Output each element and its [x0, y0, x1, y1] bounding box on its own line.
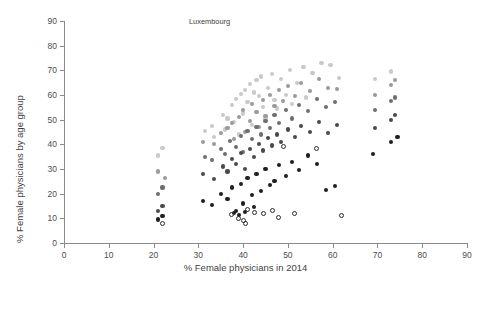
- data-point: [286, 127, 290, 131]
- data-point: [270, 208, 275, 213]
- data-point: [259, 74, 263, 78]
- data-point: [229, 212, 234, 217]
- data-point: [259, 132, 263, 136]
- data-point: [268, 93, 272, 97]
- data-point: [297, 103, 301, 107]
- data-point: [371, 152, 375, 156]
- data-point: [284, 93, 288, 97]
- data-point: [299, 124, 303, 128]
- data-point: [301, 65, 305, 69]
- data-point: [326, 131, 330, 135]
- data-point: [160, 214, 164, 218]
- data-point: [306, 109, 310, 113]
- data-point: [293, 135, 297, 139]
- data-point: [239, 151, 243, 155]
- y-axis-tick-label: 0: [30, 238, 57, 248]
- data-point: [254, 125, 258, 129]
- data-point: [239, 134, 243, 138]
- data-point: [252, 155, 256, 159]
- data-point: [284, 174, 288, 178]
- data-point: [272, 179, 276, 183]
- data-point: [275, 132, 279, 136]
- data-point: [328, 63, 332, 67]
- data-point: [248, 82, 252, 86]
- data-point: [292, 211, 297, 216]
- data-point: [219, 147, 223, 151]
- data-point: [395, 135, 399, 139]
- x-axis-tick-label: 70: [362, 250, 392, 260]
- data-point: [156, 209, 160, 213]
- data-point: [317, 77, 321, 81]
- data-point: [310, 71, 314, 75]
- x-axis-tick: [154, 244, 155, 248]
- x-axis-tick-label: 90: [452, 250, 482, 260]
- data-point: [261, 98, 265, 102]
- data-point: [210, 158, 214, 162]
- data-point: [201, 199, 205, 203]
- data-point: [337, 76, 341, 80]
- data-point: [293, 94, 297, 98]
- data-point: [335, 87, 339, 91]
- data-point: [389, 140, 393, 144]
- data-point: [393, 113, 397, 117]
- data-point: [225, 126, 229, 130]
- y-axis-tick-label: 60: [30, 90, 57, 100]
- data-point: [250, 137, 254, 141]
- data-point: [254, 78, 258, 82]
- y-axis-title: % Female physicians by age group: [14, 95, 25, 243]
- data-point: [261, 105, 265, 109]
- data-point: [250, 102, 254, 106]
- y-axis-tick-label: 50: [30, 115, 57, 125]
- data-point: [241, 201, 245, 205]
- data-point: [268, 126, 272, 130]
- data-point: [333, 184, 337, 188]
- data-point: [210, 203, 214, 207]
- x-axis-tick-label: 10: [94, 250, 124, 260]
- data-point: [243, 88, 247, 92]
- data-point: [228, 139, 232, 143]
- data-point: [234, 162, 238, 166]
- data-point: [156, 153, 160, 157]
- x-axis-tick: [288, 244, 289, 248]
- scatter-plot-figure: % Female physicians by age group 0102030…: [0, 0, 491, 334]
- x-axis-tick: [243, 244, 244, 248]
- data-point: [250, 193, 254, 197]
- data-point: [373, 93, 377, 97]
- data-point: [308, 89, 312, 93]
- data-point: [232, 137, 236, 141]
- data-point: [317, 120, 321, 124]
- data-point: [324, 105, 328, 109]
- data-point: [156, 217, 160, 221]
- data-point: [281, 144, 286, 149]
- data-point: [263, 167, 267, 171]
- data-point: [245, 176, 249, 180]
- data-point: [234, 145, 238, 149]
- data-point: [290, 116, 294, 120]
- data-point: [393, 78, 397, 82]
- y-axis-tick-label: 30: [30, 164, 57, 174]
- data-point: [373, 77, 377, 81]
- data-point: [248, 119, 252, 123]
- data-point: [156, 192, 160, 196]
- x-axis-tick: [467, 244, 468, 248]
- data-point: [288, 68, 292, 72]
- data-point: [225, 169, 229, 173]
- data-point: [237, 115, 241, 119]
- data-point: [315, 97, 319, 101]
- data-point: [160, 221, 165, 226]
- data-point: [203, 155, 207, 159]
- data-point: [281, 99, 285, 103]
- x-axis-tick: [64, 244, 65, 248]
- data-point: [163, 176, 167, 180]
- data-point: [243, 221, 248, 226]
- data-point: [335, 123, 339, 127]
- x-axis-tick-label: 40: [228, 250, 258, 260]
- x-axis-tick: [422, 244, 423, 248]
- data-point: [239, 92, 243, 96]
- data-point: [212, 177, 216, 181]
- x-axis-tick-label: 0: [49, 250, 79, 260]
- data-point: [272, 113, 276, 117]
- data-point: [239, 182, 243, 186]
- data-point: [339, 213, 344, 218]
- data-point: [241, 108, 245, 112]
